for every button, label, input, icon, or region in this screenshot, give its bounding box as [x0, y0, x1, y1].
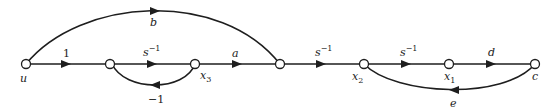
arrowhead [61, 60, 71, 68]
node-label-x1: x1 [444, 70, 455, 85]
arrowhead [232, 60, 242, 68]
node-label-x2: x2 [352, 70, 363, 85]
gain-label-s-inv-2: s−1 [315, 44, 332, 59]
gain-label-s-inv-1: s−1 [143, 44, 160, 59]
node-label-c: c [532, 70, 538, 83]
gain-label-neg1: −1 [148, 93, 164, 106]
node-x2 [360, 60, 369, 69]
node-n1 [106, 60, 115, 69]
arrowhead [147, 60, 157, 68]
gain-label-e: e [450, 97, 457, 109]
node-label-u: u [20, 72, 27, 85]
node-u [22, 60, 31, 69]
arrowhead [316, 60, 326, 68]
arrowhead [449, 86, 459, 94]
edge-x3-n1-feedback [112, 64, 195, 85]
gain-label-d: d [488, 46, 495, 59]
gain-label-a: a [232, 47, 239, 60]
node-label-x3: x3 [200, 69, 211, 84]
signal-flow-graph: u x3 x2 x1 c 1 s−1 −1 a b s−1 s−1 d e [0, 0, 558, 109]
arrowhead [401, 60, 411, 68]
node-x3 [191, 60, 200, 69]
node-c [531, 60, 540, 69]
gain-label-s-inv-3: s−1 [400, 44, 417, 59]
arrowhead [486, 60, 496, 68]
node-n4 [276, 60, 285, 69]
arrowhead [150, 7, 160, 15]
arrowhead [150, 81, 160, 89]
gain-label-1: 1 [63, 47, 70, 60]
node-x1 [445, 60, 454, 69]
gain-label-b: b [150, 16, 157, 29]
